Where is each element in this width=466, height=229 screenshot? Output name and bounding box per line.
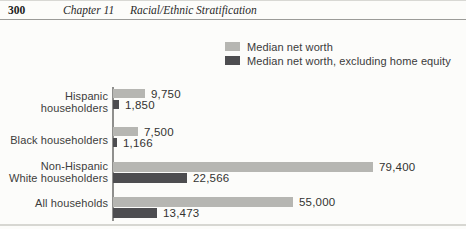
category-label: Non-HispanicWhite householders bbox=[9, 160, 108, 184]
bar-net-worth bbox=[113, 197, 293, 207]
value-label: 1,850 bbox=[125, 99, 155, 111]
bar-chart: Hispanichouseholders9,7501,850Black hous… bbox=[0, 0, 466, 229]
bar-net-worth-excl-equity bbox=[113, 208, 157, 218]
bar-net-worth bbox=[113, 89, 145, 98]
value-label: 1,166 bbox=[123, 137, 153, 149]
value-label: 13,473 bbox=[163, 207, 199, 219]
bar-net-worth-excl-equity bbox=[113, 100, 119, 109]
value-label: 22,566 bbox=[193, 172, 229, 184]
value-label: 79,400 bbox=[379, 161, 415, 173]
category-label: All households bbox=[35, 197, 108, 209]
category-label: Hispanichouseholders bbox=[41, 90, 108, 114]
category-label: Black householders bbox=[10, 134, 108, 146]
bar-net-worth bbox=[113, 127, 138, 136]
bar-net-worth-excl-equity bbox=[113, 138, 117, 147]
value-label: 9,750 bbox=[151, 88, 181, 100]
value-label: 55,000 bbox=[299, 196, 335, 208]
textbook-page: 300 Chapter 11 Racial/Ethnic Stratificat… bbox=[0, 0, 466, 229]
bottom-rule bbox=[0, 224, 466, 226]
bar-net-worth bbox=[113, 162, 373, 172]
bar-net-worth-excl-equity bbox=[113, 173, 187, 183]
